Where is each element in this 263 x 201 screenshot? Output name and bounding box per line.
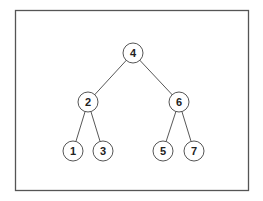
tree-node-4: 4 xyxy=(123,43,143,63)
node-label: 5 xyxy=(160,145,166,157)
node-label: 2 xyxy=(85,96,91,108)
tree-node-5: 5 xyxy=(153,141,173,161)
diagram-frame xyxy=(16,11,249,191)
node-label: 3 xyxy=(100,145,106,157)
tree-node-2: 2 xyxy=(78,92,98,112)
tree-node-7: 7 xyxy=(184,141,204,161)
tree-node-1: 1 xyxy=(63,141,83,161)
node-label: 7 xyxy=(191,145,197,157)
tree-node-6: 6 xyxy=(169,92,189,112)
tree-node-3: 3 xyxy=(93,141,113,161)
node-label: 4 xyxy=(130,47,137,59)
tree-diagram: 4 2 6 1 3 5 7 xyxy=(0,0,263,201)
node-label: 1 xyxy=(70,145,76,157)
node-label: 6 xyxy=(176,96,182,108)
